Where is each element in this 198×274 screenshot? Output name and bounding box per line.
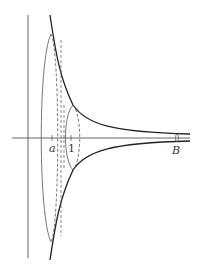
upper-curve	[50, 15, 190, 134]
horn-diagram: a 1 B	[0, 0, 198, 274]
diagram-canvas: a 1 B	[0, 0, 198, 274]
label-B: B	[171, 144, 180, 157]
ellipse-1-front	[66, 105, 74, 170]
ellipse-1-back	[73, 105, 80, 170]
label-a: a	[49, 142, 56, 155]
label-1: 1	[68, 142, 75, 155]
lower-curve	[50, 141, 190, 260]
